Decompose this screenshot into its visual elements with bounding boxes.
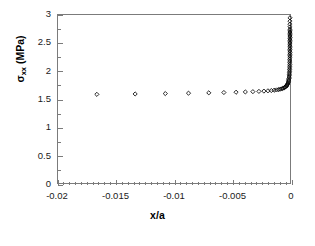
- x-minor-tick: [186, 182, 187, 185]
- x-minor-tick: [122, 182, 123, 185]
- x-minor-tick: [128, 182, 129, 185]
- y-tick-label: 0: [0, 179, 51, 189]
- data-point: [186, 91, 190, 95]
- x-tick-label: -0.015: [102, 191, 129, 201]
- y-major-tick: [58, 43, 63, 44]
- x-minor-tick: [256, 182, 257, 185]
- data-point: [207, 91, 211, 95]
- x-minor-tick: [104, 182, 105, 185]
- x-major-tick: [292, 180, 293, 185]
- x-minor-tick: [163, 182, 164, 185]
- data-point: [262, 89, 266, 93]
- data-point: [163, 91, 167, 95]
- x-minor-tick: [180, 182, 181, 185]
- x-minor-tick: [227, 182, 228, 185]
- x-minor-tick: [81, 182, 82, 185]
- x-minor-tick: [245, 182, 246, 185]
- data-point: [243, 90, 247, 94]
- data-point: [234, 90, 238, 94]
- y-minor-tick: [58, 85, 61, 86]
- y-major-tick: [58, 156, 63, 157]
- y-tick-label: 0.5: [0, 151, 51, 161]
- x-minor-tick: [204, 182, 205, 185]
- x-minor-tick: [98, 182, 99, 185]
- x-major-tick: [116, 180, 117, 185]
- data-point: [222, 90, 226, 94]
- y-axis-symbol: σ: [14, 75, 26, 82]
- y-minor-tick: [58, 114, 61, 115]
- x-minor-tick: [169, 182, 170, 185]
- y-major-tick: [58, 128, 63, 129]
- x-tick-label: -0.02: [46, 191, 68, 201]
- x-minor-tick: [251, 182, 252, 185]
- plot-area: [57, 14, 291, 184]
- x-minor-tick: [274, 182, 275, 185]
- y-major-tick: [58, 185, 63, 186]
- y-axis-subscript: xx: [19, 67, 28, 75]
- data-series-layer: [58, 15, 290, 183]
- x-minor-tick: [239, 182, 240, 185]
- x-minor-tick: [151, 182, 152, 185]
- x-tick-label: -0.005: [219, 191, 246, 201]
- x-minor-tick: [198, 182, 199, 185]
- y-major-tick: [58, 15, 63, 16]
- x-tick-label: 0: [288, 191, 293, 201]
- x-minor-tick: [93, 182, 94, 185]
- y-axis-title: σxx (MPa): [14, 0, 26, 124]
- y-minor-tick: [58, 170, 61, 171]
- x-minor-tick: [110, 182, 111, 185]
- x-minor-tick: [286, 182, 287, 185]
- y-major-tick: [58, 100, 63, 101]
- y-major-tick: [58, 71, 63, 72]
- x-minor-tick: [280, 182, 281, 185]
- y-minor-tick: [58, 142, 61, 143]
- x-minor-tick: [63, 182, 64, 185]
- data-point: [251, 90, 255, 94]
- x-minor-tick: [139, 182, 140, 185]
- x-minor-tick: [210, 182, 211, 185]
- x-minor-tick: [221, 182, 222, 185]
- x-minor-tick: [157, 182, 158, 185]
- x-minor-tick: [192, 182, 193, 185]
- x-major-tick: [175, 180, 176, 185]
- y-minor-tick: [58, 29, 61, 30]
- data-point: [257, 89, 261, 93]
- y-tick-label: 1: [0, 123, 51, 133]
- x-minor-tick: [215, 182, 216, 185]
- x-minor-tick: [262, 182, 263, 185]
- y-minor-tick: [58, 57, 61, 58]
- x-minor-tick: [69, 182, 70, 185]
- x-major-tick: [233, 180, 234, 185]
- x-minor-tick: [87, 182, 88, 185]
- x-minor-tick: [134, 182, 135, 185]
- y-axis-units: (MPa): [14, 35, 26, 64]
- data-point: [95, 92, 99, 96]
- chart-figure: 00.511.522.53 -0.02-0.015-0.01-0.0050 x/…: [0, 0, 315, 246]
- x-minor-tick: [145, 182, 146, 185]
- data-point: [133, 92, 137, 96]
- x-tick-label: -0.01: [163, 191, 185, 201]
- x-axis-title: x/a: [0, 209, 315, 221]
- x-minor-tick: [75, 182, 76, 185]
- x-minor-tick: [268, 182, 269, 185]
